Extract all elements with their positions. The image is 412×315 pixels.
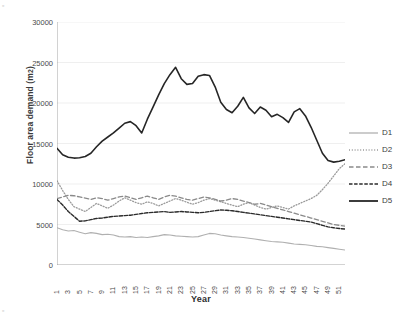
y-tick-label: 15000 (7, 139, 53, 148)
x-tick-label: 31 (222, 286, 229, 294)
legend-swatch-d5-icon (348, 196, 379, 206)
plot-area (57, 22, 345, 265)
y-axis-tick-labels: 050001000015000200002500030000 (5, 0, 53, 315)
y-tick-label: 5000 (7, 220, 53, 229)
legend-item-d4[interactable]: D4 (348, 175, 410, 192)
y-tick-label: 30000 (7, 18, 53, 27)
x-tick-label: 27 (200, 286, 207, 294)
x-tick-label: 19 (155, 286, 162, 294)
legend-label: D1 (379, 128, 392, 137)
x-tick-label: 11 (109, 287, 116, 294)
y-tick-label: 20000 (7, 99, 53, 108)
legend-item-d2[interactable]: D2 (348, 141, 410, 158)
x-tick-label: 17 (143, 286, 150, 294)
series-line-d1 (57, 228, 345, 250)
legend-item-d1[interactable]: D1 (348, 124, 410, 141)
series-line-d2 (57, 164, 345, 212)
x-tick-label: 39 (268, 286, 275, 294)
series-line-d5 (57, 67, 345, 162)
x-tick-label: 13 (121, 286, 128, 294)
series-line-d3 (57, 195, 345, 226)
x-tick-label: 29 (211, 286, 218, 294)
x-tick-label: 51 (335, 286, 342, 294)
x-axis-title: Year (57, 294, 345, 304)
x-tick-label: 37 (256, 286, 263, 294)
x-tick-label: 41 (279, 286, 286, 294)
x-axis-tick-labels: 1357911131517192123252729313335373941434… (57, 266, 345, 294)
x-tick-label: 47 (313, 286, 320, 294)
legend-swatch-d2-icon (348, 145, 379, 155)
x-tick-label: 25 (189, 286, 196, 294)
y-tick-label: 10000 (7, 180, 53, 189)
legend-swatch-d4-icon (348, 179, 379, 189)
x-tick-label: 45 (301, 286, 308, 294)
chart-legend: D1D2D3D4D5 (348, 124, 410, 209)
legend-swatch-d1-icon (348, 128, 379, 138)
series-canvas (57, 22, 345, 265)
x-tick-label: 21 (166, 286, 173, 294)
legend-swatch-d3-icon (348, 162, 379, 172)
x-tick-label: 35 (245, 286, 252, 294)
legend-label: D5 (379, 196, 392, 205)
legend-label: D4 (379, 179, 392, 188)
y-tick-label: 0 (7, 261, 53, 270)
legend-item-d3[interactable]: D3 (348, 158, 410, 175)
x-tick-label: 49 (324, 286, 331, 294)
x-tick-label: 23 (177, 286, 184, 294)
x-tick-label: 15 (132, 286, 139, 294)
legend-item-d5[interactable]: D5 (348, 192, 410, 209)
chart-figure: ▫ ▫ Floor area demand (m2) 0500010000150… (0, 0, 412, 315)
x-tick-label: 33 (234, 286, 241, 294)
legend-label: D3 (379, 162, 392, 171)
y-tick-label: 25000 (7, 58, 53, 67)
legend-label: D2 (379, 145, 392, 154)
x-tick-label: 43 (290, 286, 297, 294)
